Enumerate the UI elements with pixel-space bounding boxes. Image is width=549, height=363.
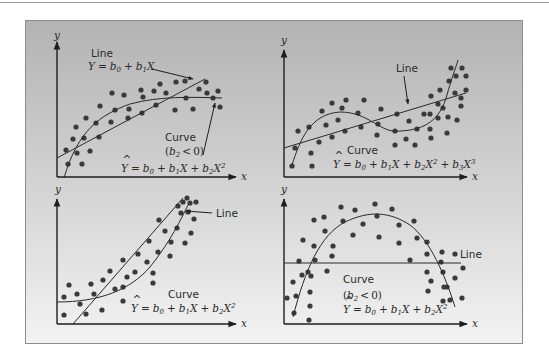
curve-label: Curve [347, 144, 378, 156]
curve-label: Curve [343, 273, 374, 285]
y-axis-label: y [280, 183, 288, 195]
svg-text:Y=b0+b1X+b2X2: Y=b0+b1X+b2X2 [343, 303, 448, 317]
data-points [289, 65, 468, 168]
x-axis-label: x [472, 170, 478, 182]
x-axis-label: x [241, 317, 247, 329]
svg-text:^: ^ [133, 293, 142, 305]
svg-text:Y=b0+b1X: Y=b0+b1X [88, 60, 155, 74]
curve-pointer-arrow [203, 103, 215, 155]
line-label: Line [91, 47, 113, 59]
y-axis-label: y [54, 183, 62, 195]
y-axis-label: y [280, 34, 288, 46]
regression-curve [293, 214, 455, 317]
y-axis-label: y [53, 29, 61, 41]
chart-top-right: y x Line Curve Y=b0+b1X+b2X2+ [280, 34, 478, 182]
svg-text:Y=b0+b1X+b2X2: Y=b0+b1X+b2X2 [121, 162, 226, 176]
line-pointer-arrow [404, 76, 408, 104]
chart-bottom-left: y x Line Curve Y=b0+b1X+b2X2 ^ [54, 183, 247, 329]
chart-bottom-right: y x Line Curve (b2<0) [280, 183, 482, 329]
x-axis-label: x [241, 170, 247, 182]
line-label: Line [460, 248, 482, 260]
line-label: Line [396, 62, 418, 74]
curve-label: Curve [165, 131, 196, 143]
svg-text:^: ^ [335, 149, 344, 161]
line-equation: Y=b0+b1X [88, 60, 155, 74]
svg-text:^: ^ [345, 294, 354, 306]
chart-top-left: y x Line Y=b0+b1X Curve (b2<0) [53, 29, 247, 182]
curve-condition: (b2<0) [165, 145, 204, 159]
svg-text:Y=b0+b1X+b2X2+b3X3: Y=b0+b1X+b2X2+b3X3 [333, 158, 476, 172]
svg-text:Y=b0+b1X+b2X2: Y=b0+b1X+b2X2 [131, 302, 236, 316]
curve-label: Curve [168, 288, 199, 300]
regression-figure: y x Line Y=b0+b1X Curve (b2<0) [0, 0, 549, 363]
x-axis-label: x [472, 317, 478, 329]
svg-text:(b2<0): (b2<0) [165, 145, 204, 159]
line-label: Line [216, 207, 238, 219]
svg-text:^: ^ [123, 153, 132, 165]
curve-equation: Y=b0+b1X+b2X2 ^ [343, 294, 448, 317]
line-pointer-arrow [152, 69, 193, 79]
